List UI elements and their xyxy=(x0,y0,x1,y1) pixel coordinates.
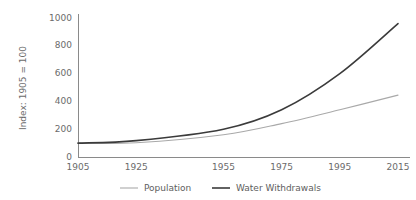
line-chart: Index: 1905 = 100 02004006008001000 1905… xyxy=(0,0,416,200)
y-tick-label: 600 xyxy=(55,68,72,78)
y-tick-label: 0 xyxy=(66,152,72,162)
y-axis-title-group: Index: 1905 = 100 xyxy=(18,46,28,130)
chart-legend: PopulationWater Withdrawals xyxy=(120,183,321,193)
chart-container: Index: 1905 = 100 02004006008001000 1905… xyxy=(0,0,416,200)
series-line-water-withdrawals xyxy=(78,24,398,144)
y-axis-tick-labels: 02004006008001000 xyxy=(49,13,72,162)
legend-label-water-withdrawals: Water Withdrawals xyxy=(236,183,321,193)
x-tick-label: 1905 xyxy=(67,162,90,172)
y-tick-label: 1000 xyxy=(49,13,72,23)
x-tick-label: 1955 xyxy=(212,162,235,172)
x-tick-label: 1975 xyxy=(270,162,293,172)
y-tick-label: 400 xyxy=(55,96,72,106)
series-lines xyxy=(78,24,398,144)
legend-label-population: Population xyxy=(144,183,191,193)
series-line-population xyxy=(78,95,398,143)
axis-lines xyxy=(78,14,410,157)
y-tick-label: 200 xyxy=(55,124,72,134)
x-axis-tick-labels: 190519251955197519952015 xyxy=(67,162,410,172)
x-tick-label: 1995 xyxy=(328,162,351,172)
y-axis-title: Index: 1905 = 100 xyxy=(18,46,28,130)
x-tick-label: 2015 xyxy=(387,162,410,172)
y-tick-label: 800 xyxy=(55,40,72,50)
x-tick-label: 1925 xyxy=(125,162,148,172)
